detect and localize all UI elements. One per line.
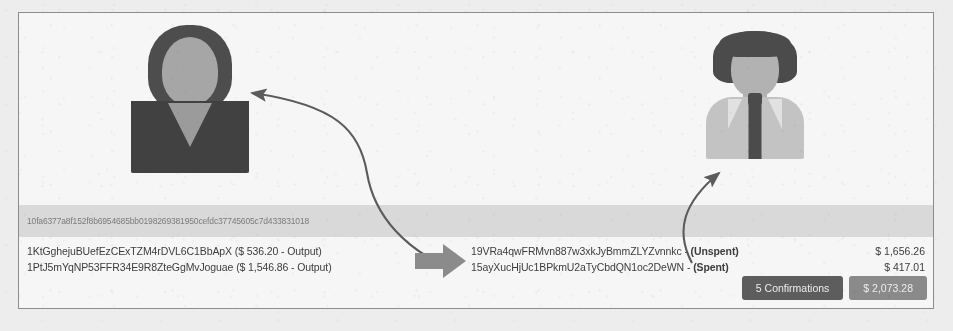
avatar-hair-front: [719, 31, 791, 57]
input-detail: ($ 1,546.86 - Output): [236, 261, 331, 273]
avatar-lapel-right: [219, 101, 249, 173]
transaction-visualization-screenshot: 10fa6377a8f152f8b6954685bb0198269381950c…: [0, 0, 953, 331]
inputs-column: 1KtGghejuBUefEzCExTZM4rDVL6C1BbApX ($ 53…: [27, 243, 457, 275]
output-row[interactable]: 19VRa4qwFRMvn887w3xkJyBmmZLYZvnnkc - (Un…: [471, 243, 925, 259]
avatar-hair-front: [148, 25, 232, 63]
person-male-avatar-icon: [702, 27, 808, 159]
output-row[interactable]: 15ayXucHjUc1BPkmU2aTyCbdQN1oc2DeWN - (Sp…: [471, 259, 925, 275]
avatar-lapel-left: [131, 101, 161, 173]
avatar-tie: [749, 103, 762, 159]
output-status-badge: (Unspent): [691, 245, 739, 257]
person-female-avatar-icon: [126, 21, 254, 173]
output-separator: -: [684, 261, 693, 273]
avatar-collar-right: [768, 99, 782, 129]
confirmations-button[interactable]: 5 Confirmations: [742, 276, 844, 301]
footer-bar: 5 Confirmations $ 2,073.28: [742, 276, 927, 301]
transaction-hash[interactable]: 10fa6377a8f152f8b6954685bb0198269381950c…: [19, 216, 309, 226]
output-status-badge: (Spent): [693, 261, 728, 273]
outputs-column: 19VRa4qwFRMvn887w3xkJyBmmZLYZvnnkc - (Un…: [471, 243, 925, 275]
input-address[interactable]: 1PtJ5mYqNP53FFR34E9R8ZteGgMvJoguae: [27, 261, 233, 273]
output-address[interactable]: 15ayXucHjUc1BPkmU2aTyCbdQN1oc2DeWN: [471, 261, 684, 273]
avatar-collar: [168, 103, 212, 147]
output-amount: $ 417.01: [872, 259, 925, 275]
input-row[interactable]: 1PtJ5mYqNP53FFR34E9R8ZteGgMvJoguae ($ 1,…: [27, 259, 457, 275]
output-amount: $ 1,656.26: [863, 243, 925, 259]
input-row[interactable]: 1KtGghejuBUefEzCExTZM4rDVL6C1BbApX ($ 53…: [27, 243, 457, 259]
avatar-collar-left: [728, 99, 742, 129]
output-address[interactable]: 19VRa4qwFRMvn887w3xkJyBmmZLYZvnnkc: [471, 245, 682, 257]
output-separator: -: [682, 245, 691, 257]
total-amount-button[interactable]: $ 2,073.28: [849, 276, 927, 301]
input-detail: ($ 536.20 - Output): [235, 245, 322, 257]
transaction-panel: 10fa6377a8f152f8b6954685bb0198269381950c…: [18, 12, 934, 309]
input-address[interactable]: 1KtGghejuBUefEzCExTZM4rDVL6C1BbApX: [27, 245, 232, 257]
transaction-hash-band[interactable]: 10fa6377a8f152f8b6954685bb0198269381950c…: [19, 205, 933, 237]
actors-area: [19, 13, 933, 203]
